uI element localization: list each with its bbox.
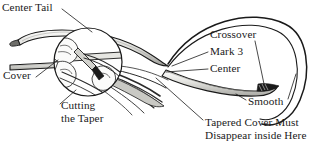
rope-splice-figure: Center Tail Cover Cutting the Taper Cros…: [0, 0, 313, 151]
leader-center-tail: [62, 9, 92, 32]
label-center: Center: [210, 62, 240, 74]
label-tapered-line-1: Tapered Cover Must: [205, 116, 307, 129]
label-smooth: Smooth: [248, 95, 283, 107]
leader-smooth-2: [288, 74, 296, 99]
label-tapered-line-2: Disappear inside Here: [205, 129, 307, 142]
leader-crossover: [255, 41, 264, 84]
label-cutting-line-2: the Taper: [61, 112, 103, 125]
mark-3-tick: [257, 84, 279, 92]
leader-center: [166, 69, 208, 72]
label-crossover: Crossover: [210, 28, 256, 40]
label-center-tail: Center Tail: [2, 1, 53, 13]
label-cutting-line-1: Cutting: [61, 99, 103, 112]
label-cover: Cover: [3, 69, 31, 81]
label-mark-3: Mark 3: [210, 45, 243, 57]
leader-mark3: [172, 52, 208, 66]
label-tapered-cover-note: Tapered Cover Must Disappear inside Here: [205, 116, 307, 141]
label-cutting-the-taper: Cutting the Taper: [61, 99, 103, 124]
